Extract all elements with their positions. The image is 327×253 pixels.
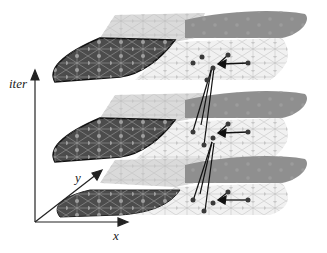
layer-middle <box>53 91 307 162</box>
iter-axis-label: iter <box>9 76 28 91</box>
x-arrow-icon <box>118 218 128 226</box>
layer-top <box>53 11 307 82</box>
y-arrow-icon <box>92 170 102 180</box>
layered-mesh-diagram: iter x y <box>0 0 327 253</box>
iter-arrow-icon <box>31 70 39 80</box>
y-axis-label: y <box>73 170 81 185</box>
layer-bottom <box>57 156 307 217</box>
x-axis-label: x <box>112 228 119 243</box>
